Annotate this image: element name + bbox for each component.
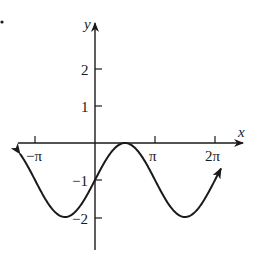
x-ticks bbox=[35, 136, 215, 143]
function-graph: y x 2 1 −1 −2 −π π 2π bbox=[0, 0, 258, 264]
x-axis-label: x bbox=[237, 124, 245, 140]
y-tick-label-neg1: −1 bbox=[72, 173, 88, 189]
x-tick-label-neg-pi: −π bbox=[26, 148, 42, 164]
y-tick-label-1: 1 bbox=[81, 99, 89, 115]
y-tick-label-neg2: −2 bbox=[72, 211, 88, 227]
y-tick-label-2: 2 bbox=[81, 62, 89, 78]
x-tick-label-2pi: 2π bbox=[205, 148, 221, 164]
curve-sin-x-minus-1 bbox=[20, 143, 221, 217]
x-tick-label-pi: π bbox=[149, 148, 157, 164]
corner-dot bbox=[0, 20, 3, 23]
y-axis-label: y bbox=[82, 16, 91, 32]
